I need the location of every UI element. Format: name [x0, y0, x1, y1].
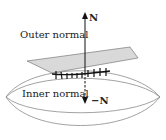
outer-normal-label: Outer normal [20, 30, 88, 40]
tangent-plane [27, 47, 138, 73]
diagram-canvas: N Outer normal Inner normal −N [0, 0, 166, 140]
diagram-graphic [0, 0, 166, 140]
inner-normal-label: Inner normal [22, 89, 89, 99]
minus-n-label: −N [91, 96, 109, 106]
normal-n-label: N [89, 13, 98, 23]
